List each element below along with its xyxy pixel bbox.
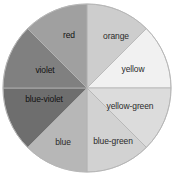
wheel-slice-group [3,4,171,172]
wheel-label-red: red [63,31,75,40]
wheel-label-yellow: yellow [121,65,144,74]
wheel-label-orange: orange [103,32,129,41]
wheel-label-violet: violet [35,66,54,75]
color-wheel-figure: orangeyellowyellow-greenblue-greenbluebl… [0,0,174,181]
color-wheel-svg [0,0,174,181]
wheel-label-blue-violet: blue-violet [25,95,63,104]
wheel-label-blue-green: blue-green [93,137,133,146]
wheel-label-yellow-green: yellow-green [107,102,154,111]
wheel-label-blue: blue [55,138,71,147]
